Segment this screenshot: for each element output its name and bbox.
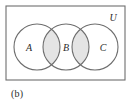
universal-set-label: U — [109, 12, 117, 23]
set-label-c: C — [100, 42, 107, 53]
venn-figure: A B C U (b) — [0, 0, 132, 105]
set-label-a: A — [25, 42, 33, 53]
figure-caption: (b) — [11, 87, 23, 101]
venn-diagram-svg: A B C U — [0, 0, 132, 86]
venn-diagram-stage: A B C U — [0, 0, 132, 86]
set-label-b: B — [63, 42, 69, 53]
